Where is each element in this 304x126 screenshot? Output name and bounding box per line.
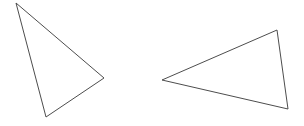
figure-svg [0, 0, 304, 126]
canvas-background [0, 0, 304, 126]
drawing-canvas [0, 0, 304, 126]
